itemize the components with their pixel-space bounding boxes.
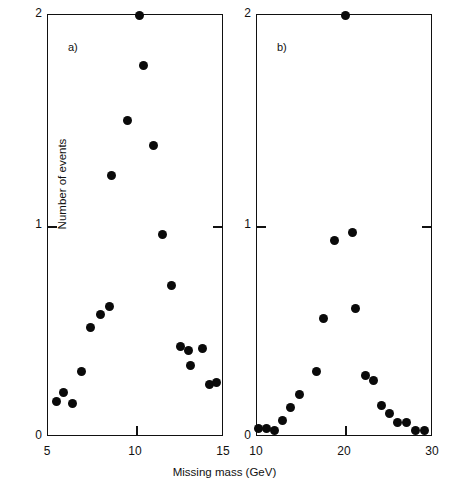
data-point (105, 302, 114, 311)
panel-b-label: b) (277, 41, 287, 53)
data-point (319, 314, 328, 323)
data-point (139, 61, 148, 70)
data-point (348, 228, 357, 237)
x-axis-label: Missing mass (GeV) (0, 466, 449, 478)
data-point (312, 367, 321, 376)
data-point (68, 399, 77, 408)
data-point (420, 426, 429, 435)
plot-panel-b: b) (256, 14, 432, 436)
data-point (158, 230, 167, 239)
data-point (286, 403, 295, 412)
plot-area-a (48, 15, 222, 435)
data-point (351, 304, 360, 313)
data-point (86, 323, 95, 332)
data-point (402, 418, 411, 427)
y-axis-label: Number of events (56, 114, 68, 254)
x-axis-tick-label: 30 (412, 444, 449, 458)
y-axis-tick (213, 226, 222, 228)
data-point (330, 236, 339, 245)
data-point (212, 378, 221, 387)
data-point (135, 11, 144, 20)
data-point (96, 310, 105, 319)
data-point (184, 346, 193, 355)
data-point (77, 367, 86, 376)
x-axis-tick (345, 426, 347, 435)
data-point (149, 141, 158, 150)
data-point (52, 397, 61, 406)
y-axis-tick-label: 2 (22, 6, 42, 20)
plot-area-b (257, 15, 431, 435)
y-axis-tick-label: 1 (22, 217, 42, 231)
data-point (385, 409, 394, 418)
data-point (198, 344, 207, 353)
panel-a-label: a) (68, 41, 78, 53)
data-point (341, 11, 350, 20)
plot-panel-a: a) (47, 14, 223, 436)
x-axis-tick-label: 10 (115, 444, 155, 458)
x-axis-tick (136, 426, 138, 435)
data-point (295, 390, 304, 399)
data-point (167, 281, 176, 290)
data-point (278, 416, 287, 425)
x-axis-tick-label: 20 (324, 444, 364, 458)
figure-missing-mass: a) b) 01251015012102030 Number of events… (0, 0, 449, 494)
data-point (377, 401, 386, 410)
y-axis-tick-label: 2 (231, 6, 251, 20)
y-axis-tick (422, 226, 431, 228)
y-axis-tick (257, 226, 266, 228)
data-point (270, 426, 279, 435)
data-point (411, 426, 420, 435)
data-point (369, 376, 378, 385)
data-point (393, 418, 402, 427)
data-point (186, 361, 195, 370)
x-axis-tick-label: 5 (27, 444, 67, 458)
data-point (176, 342, 185, 351)
data-point (107, 171, 116, 180)
data-point (123, 116, 132, 125)
y-axis-tick-label: 0 (22, 428, 42, 442)
y-axis-tick-label: 1 (231, 217, 251, 231)
x-axis-tick-label: 10 (236, 444, 276, 458)
data-point (59, 388, 68, 397)
y-axis-tick-label: 0 (231, 428, 251, 442)
